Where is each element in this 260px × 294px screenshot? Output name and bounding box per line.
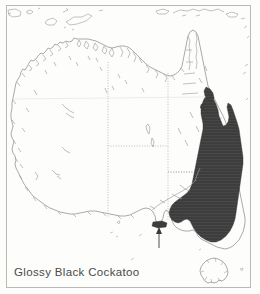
southern-islands bbox=[110, 221, 142, 272]
bass-strait-islet-2 bbox=[199, 249, 201, 250]
northern-islands bbox=[8, 8, 103, 30]
range-kangaroo-island bbox=[152, 221, 167, 228]
tasmania-outline bbox=[200, 258, 228, 283]
distribution-map-figure: Glossy Black Cockatoo bbox=[0, 0, 260, 294]
figure-caption: Glossy Black Cockatoo bbox=[14, 266, 140, 278]
kangaroo-island-arrow bbox=[156, 227, 162, 248]
australia-map bbox=[0, 0, 260, 294]
bass-strait-islet bbox=[240, 268, 243, 271]
